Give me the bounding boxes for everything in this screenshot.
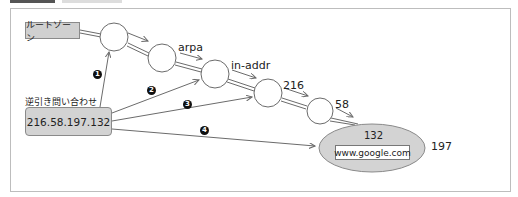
step-badge-3: 3	[183, 100, 192, 109]
in-addr-node	[201, 60, 229, 88]
step-badge-4: 4	[200, 126, 209, 135]
trailing-octet-label: 197	[431, 141, 452, 152]
arpa-node	[148, 44, 176, 72]
final-node-label: 132	[364, 131, 383, 141]
final-host-box: www.google.com	[335, 145, 410, 160]
query-address-box: 216.58.197.132	[25, 107, 112, 136]
58-node	[307, 98, 333, 124]
root-zone-box: ルートゾーン	[25, 22, 80, 39]
zone-label-arpa: arpa	[178, 42, 203, 53]
zone-label-in-addr: in-addr	[231, 60, 270, 71]
root-node	[100, 23, 128, 51]
216-node	[254, 79, 282, 107]
step-badge-2: 2	[147, 86, 156, 95]
zone-label-216: 216	[283, 80, 304, 91]
zone-label-58: 58	[335, 99, 349, 110]
step-badge-1: 1	[93, 70, 102, 79]
